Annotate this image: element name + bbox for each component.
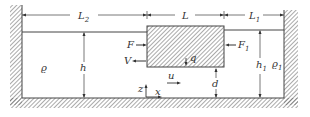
coordinate-axes: z x bbox=[137, 83, 162, 99]
left-wall bbox=[10, 5, 22, 105]
svg-text:F: F bbox=[126, 39, 135, 50]
length-dimensions: L2 L L1 bbox=[22, 10, 284, 24]
right-wall bbox=[284, 10, 298, 105]
channel-floor bbox=[10, 98, 298, 108]
label-L: L bbox=[181, 10, 189, 21]
label-L2: L2 bbox=[77, 10, 90, 24]
label-h: h bbox=[80, 62, 86, 73]
axis-x-label: x bbox=[155, 86, 161, 97]
axis-z-label: z bbox=[137, 83, 144, 94]
label-h1: h1 bbox=[256, 59, 267, 73]
gap-d: d bbox=[212, 68, 218, 98]
floating-block bbox=[147, 26, 224, 67]
svg-text:q: q bbox=[190, 52, 196, 63]
label-F1: F1 bbox=[237, 39, 249, 53]
velocity-V: V bbox=[124, 55, 146, 66]
label-L1: L1 bbox=[248, 10, 260, 24]
depth-h: h bbox=[80, 32, 86, 98]
force-F1: F1 bbox=[225, 39, 249, 53]
channel-diagram: L2 L L1 h h1 d ϱ ϱ1 F F1 bbox=[0, 0, 310, 117]
label-rho: ϱ bbox=[41, 62, 47, 73]
force-F: F bbox=[126, 39, 147, 50]
label-d: d bbox=[212, 78, 218, 89]
svg-text:V: V bbox=[124, 55, 133, 66]
svg-text:u: u bbox=[168, 70, 174, 81]
velocity-u: u bbox=[167, 70, 181, 85]
label-rho1: ϱ1 bbox=[272, 58, 282, 72]
depth-h1: h1 bbox=[256, 30, 267, 98]
